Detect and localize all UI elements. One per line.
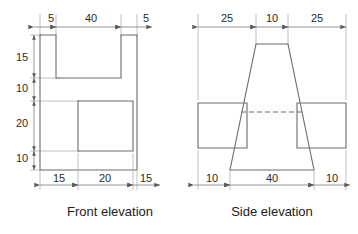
front-dim-top-40: 40 [85, 12, 97, 24]
side-elevation-view: 25 10 25 10 [194, 12, 350, 220]
side-elevation-trapezoid [230, 44, 314, 170]
front-dim-bottom-15-right: 15 [140, 172, 152, 184]
side-dim-bottom-10-right: 10 [326, 172, 338, 184]
front-dim-bottom-20: 20 [99, 172, 111, 184]
front-elevation-caption: Front elevation [67, 204, 153, 219]
side-dim-top-25-left: 25 [221, 12, 233, 24]
front-dim-left-10-lower: 10 [16, 152, 28, 164]
front-dim-top-5-right: 5 [143, 12, 149, 24]
front-elevation-view: 5 40 5 15 10 20 10 [16, 12, 160, 220]
front-dim-bottom-15-left: 15 [53, 172, 65, 184]
side-dim-top-10: 10 [266, 12, 278, 24]
side-elevation-caption: Side elevation [231, 204, 313, 219]
front-dim-left-20: 20 [16, 117, 28, 129]
technical-drawing-canvas: 5 40 5 15 10 20 10 [0, 0, 358, 234]
side-dim-top-25-right: 25 [311, 12, 323, 24]
side-dim-bottom-10-left: 10 [206, 172, 218, 184]
side-dim-bottom-40: 40 [266, 172, 278, 184]
front-dim-left-15: 15 [16, 51, 28, 63]
front-dim-top-5-left: 5 [48, 12, 54, 24]
front-dim-left-10-upper: 10 [16, 82, 28, 94]
engineering-drawing-svg: 5 40 5 15 10 20 10 [0, 0, 358, 234]
front-elevation-inner-square [78, 101, 133, 151]
front-left-extension-lines [30, 35, 80, 170]
front-elevation-outline [40, 35, 137, 170]
